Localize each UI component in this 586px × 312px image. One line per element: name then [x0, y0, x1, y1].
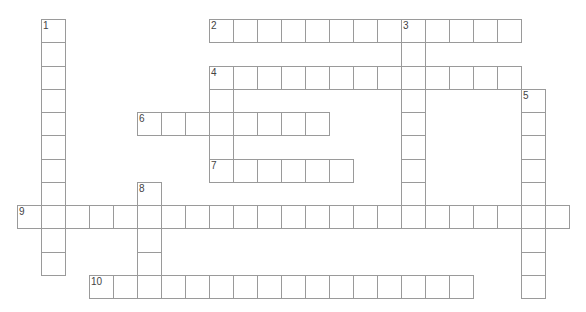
crossword-cell[interactable]	[401, 159, 426, 183]
crossword-cell[interactable]	[209, 112, 234, 136]
crossword-cell[interactable]	[425, 66, 450, 90]
crossword-cell[interactable]	[65, 205, 90, 229]
crossword-cell[interactable]	[41, 112, 66, 136]
crossword-cell[interactable]	[281, 19, 306, 43]
crossword-cell[interactable]	[329, 66, 354, 90]
crossword-cell[interactable]	[521, 159, 546, 183]
crossword-cell[interactable]	[449, 66, 474, 90]
crossword-cell[interactable]	[425, 275, 450, 299]
crossword-cell[interactable]	[257, 66, 282, 90]
crossword-cell[interactable]	[521, 135, 546, 159]
crossword-cell[interactable]	[257, 112, 282, 136]
crossword-cell[interactable]: 1	[41, 19, 66, 43]
crossword-cell[interactable]	[233, 19, 258, 43]
crossword-cell[interactable]	[521, 275, 546, 299]
crossword-cell[interactable]	[113, 205, 138, 229]
crossword-cell[interactable]	[209, 89, 234, 113]
crossword-cell[interactable]	[305, 112, 330, 136]
crossword-cell[interactable]	[473, 205, 498, 229]
crossword-cell[interactable]	[401, 205, 426, 229]
crossword-cell[interactable]	[233, 66, 258, 90]
crossword-cell[interactable]: 7	[209, 159, 234, 183]
crossword-cell[interactable]	[233, 112, 258, 136]
crossword-cell[interactable]	[41, 66, 66, 90]
crossword-cell[interactable]	[161, 205, 186, 229]
crossword-cell[interactable]	[473, 19, 498, 43]
crossword-cell[interactable]: 8	[137, 182, 162, 206]
crossword-cell[interactable]	[497, 66, 522, 90]
crossword-cell[interactable]	[497, 19, 522, 43]
crossword-cell[interactable]	[257, 275, 282, 299]
crossword-cell[interactable]	[305, 66, 330, 90]
crossword-cell[interactable]	[41, 205, 66, 229]
crossword-cell[interactable]	[185, 112, 210, 136]
crossword-cell[interactable]	[377, 205, 402, 229]
crossword-cell[interactable]	[281, 205, 306, 229]
crossword-cell[interactable]	[41, 159, 66, 183]
crossword-cell[interactable]	[545, 205, 570, 229]
crossword-cell[interactable]: 9	[17, 205, 42, 229]
crossword-cell[interactable]	[497, 205, 522, 229]
crossword-cell[interactable]: 3	[401, 19, 426, 43]
crossword-cell[interactable]	[401, 135, 426, 159]
crossword-cell[interactable]	[377, 66, 402, 90]
crossword-cell[interactable]	[137, 275, 162, 299]
crossword-cell[interactable]: 10	[89, 275, 114, 299]
crossword-cell[interactable]	[281, 159, 306, 183]
crossword-cell[interactable]	[257, 159, 282, 183]
crossword-cell[interactable]	[281, 275, 306, 299]
crossword-cell[interactable]	[161, 112, 186, 136]
crossword-cell[interactable]	[209, 205, 234, 229]
crossword-cell[interactable]	[137, 252, 162, 276]
crossword-cell[interactable]	[401, 66, 426, 90]
crossword-cell[interactable]	[41, 228, 66, 252]
crossword-cell[interactable]	[41, 252, 66, 276]
crossword-cell[interactable]	[473, 66, 498, 90]
crossword-cell[interactable]	[161, 275, 186, 299]
crossword-cell[interactable]	[305, 159, 330, 183]
crossword-cell[interactable]	[281, 66, 306, 90]
crossword-cell[interactable]	[209, 275, 234, 299]
crossword-cell[interactable]	[353, 66, 378, 90]
crossword-cell[interactable]	[401, 89, 426, 113]
crossword-cell[interactable]	[425, 19, 450, 43]
crossword-cell[interactable]	[521, 182, 546, 206]
crossword-cell[interactable]	[233, 159, 258, 183]
crossword-cell[interactable]	[113, 275, 138, 299]
crossword-cell[interactable]	[41, 89, 66, 113]
crossword-cell[interactable]	[401, 182, 426, 206]
crossword-cell[interactable]	[329, 19, 354, 43]
crossword-cell[interactable]	[185, 275, 210, 299]
crossword-cell[interactable]	[41, 182, 66, 206]
crossword-cell[interactable]	[377, 19, 402, 43]
crossword-cell[interactable]: 2	[209, 19, 234, 43]
crossword-cell[interactable]	[449, 19, 474, 43]
crossword-cell[interactable]	[281, 112, 306, 136]
crossword-cell[interactable]	[233, 275, 258, 299]
crossword-cell[interactable]	[209, 135, 234, 159]
crossword-cell[interactable]	[185, 205, 210, 229]
crossword-cell[interactable]	[353, 19, 378, 43]
crossword-cell[interactable]	[137, 228, 162, 252]
crossword-cell[interactable]	[521, 112, 546, 136]
crossword-cell[interactable]	[377, 275, 402, 299]
crossword-cell[interactable]: 6	[137, 112, 162, 136]
crossword-cell[interactable]	[257, 19, 282, 43]
crossword-cell[interactable]	[329, 205, 354, 229]
crossword-cell[interactable]	[257, 205, 282, 229]
crossword-cell[interactable]	[137, 205, 162, 229]
crossword-cell[interactable]: 5	[521, 89, 546, 113]
crossword-cell[interactable]	[401, 42, 426, 66]
crossword-cell[interactable]	[305, 205, 330, 229]
crossword-cell[interactable]	[329, 159, 354, 183]
crossword-cell[interactable]	[41, 42, 66, 66]
crossword-cell[interactable]	[401, 275, 426, 299]
crossword-cell[interactable]	[329, 275, 354, 299]
crossword-cell[interactable]	[89, 205, 114, 229]
crossword-cell[interactable]	[41, 135, 66, 159]
crossword-cell[interactable]	[449, 205, 474, 229]
crossword-cell[interactable]: 4	[209, 66, 234, 90]
crossword-cell[interactable]	[353, 205, 378, 229]
crossword-cell[interactable]	[233, 205, 258, 229]
crossword-cell[interactable]	[449, 275, 474, 299]
